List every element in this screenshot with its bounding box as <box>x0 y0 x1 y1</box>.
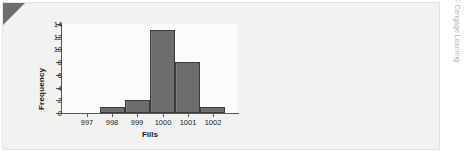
copyright-credit: © Cengage Learning <box>454 0 461 62</box>
y-tick-label: 14 <box>36 20 62 29</box>
x-tick-mark <box>112 113 113 117</box>
y-tick-label-wrap: 0 <box>28 113 62 114</box>
y-tick-label: 10 <box>36 45 62 54</box>
y-tick-label-wrap: 14 <box>28 24 62 25</box>
x-tick-mark <box>213 113 214 117</box>
y-tick-label-wrap: 12 <box>28 37 62 38</box>
y-tick-label: 0 <box>36 109 62 118</box>
histogram-bar <box>100 107 125 113</box>
y-tick-label: 6 <box>36 71 62 80</box>
y-tick-label-wrap: 8 <box>28 62 62 63</box>
y-tick-label-wrap: 4 <box>28 88 62 89</box>
y-tick-label-wrap: 6 <box>28 75 62 76</box>
y-tick-label-wrap: 2 <box>28 100 62 101</box>
x-tick-mark <box>188 113 189 117</box>
clipped-top-text <box>70 0 260 3</box>
corner-fold-decoration <box>3 3 25 25</box>
x-axis-title: Fills <box>62 130 238 139</box>
y-tick-label: 8 <box>36 58 62 67</box>
x-tick-mark <box>163 113 164 117</box>
histogram-chart: Frequency 02468101214 997998999100010011… <box>28 14 258 146</box>
x-tick-mark <box>137 113 138 117</box>
x-tick-label: 1002 <box>196 118 230 127</box>
figure-root: Frequency 02468101214 997998999100010011… <box>0 0 464 160</box>
x-tick-mark <box>87 113 88 117</box>
y-tick-label-wrap: 10 <box>28 49 62 50</box>
histogram-bar <box>175 62 200 113</box>
y-tick-label: 12 <box>36 33 62 42</box>
histogram-bar <box>125 100 150 113</box>
histogram-bar <box>150 30 175 113</box>
y-tick-label: 2 <box>36 96 62 105</box>
histogram-bar <box>200 107 225 113</box>
y-tick-label: 4 <box>36 84 62 93</box>
